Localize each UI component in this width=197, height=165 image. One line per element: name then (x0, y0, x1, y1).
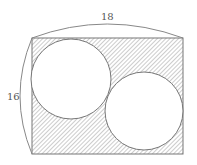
height-label: 16 (7, 91, 20, 102)
width-label: 18 (101, 11, 114, 22)
height-dimension-arc (20, 38, 32, 154)
width-dimension-arc (32, 24, 183, 38)
circle-right (105, 72, 183, 150)
geometry-diagram: 18 16 (0, 0, 197, 165)
circle-left (31, 39, 111, 119)
